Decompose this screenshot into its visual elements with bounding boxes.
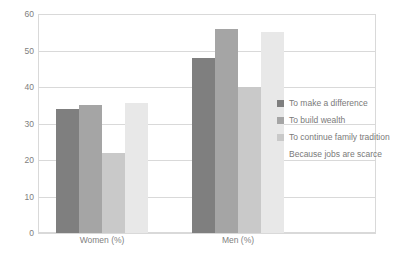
bar-group xyxy=(56,14,148,233)
bar[interactable] xyxy=(56,109,79,233)
bar-chart: 0102030405060 Women (%)Men (%) To make a… xyxy=(0,0,418,259)
legend-swatch-icon xyxy=(277,100,284,107)
bar[interactable] xyxy=(192,58,215,233)
legend-item[interactable]: Because jobs are scarce xyxy=(277,146,415,163)
legend-item[interactable]: To continue family tradition xyxy=(277,129,415,146)
bar[interactable] xyxy=(215,29,238,233)
chart-legend: To make a differenceTo build wealthTo co… xyxy=(277,95,415,163)
y-tick-label: 40 xyxy=(8,83,34,92)
legend-label: To continue family tradition xyxy=(289,133,390,142)
y-tick-label: 30 xyxy=(8,119,34,128)
y-tick-label: 10 xyxy=(8,192,34,201)
legend-label: To make a difference xyxy=(289,99,368,108)
y-tick-label: 20 xyxy=(8,156,34,165)
legend-swatch-icon xyxy=(277,151,284,158)
x-category-label: Men (%) xyxy=(188,236,288,245)
bar-group xyxy=(192,14,284,233)
legend-item[interactable]: To build wealth xyxy=(277,112,415,129)
legend-label: To build wealth xyxy=(289,116,345,125)
y-tick-label: 50 xyxy=(8,46,34,55)
legend-swatch-icon xyxy=(277,134,284,141)
bar[interactable] xyxy=(125,103,148,233)
bar[interactable] xyxy=(102,153,125,233)
x-category-label: Women (%) xyxy=(52,236,152,245)
gridline xyxy=(38,233,376,234)
bar[interactable] xyxy=(238,87,261,233)
y-tick-label: 0 xyxy=(8,229,34,238)
y-tick-label: 60 xyxy=(8,10,34,19)
legend-swatch-icon xyxy=(277,117,284,124)
legend-item[interactable]: To make a difference xyxy=(277,95,415,112)
bar[interactable] xyxy=(79,105,102,233)
legend-label: Because jobs are scarce xyxy=(289,150,382,159)
